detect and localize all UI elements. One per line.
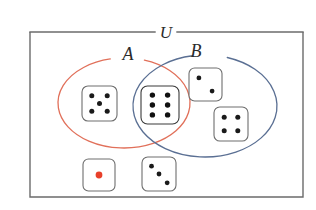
venn-diagram-figure: U AB	[0, 0, 316, 210]
die-pip	[157, 172, 162, 177]
die-face	[189, 68, 222, 101]
die-pip	[235, 128, 240, 133]
die-pip	[97, 101, 102, 106]
die-pip	[150, 112, 155, 117]
set-labels-group: AB	[122, 41, 202, 64]
venn-diagram-canvas: U AB	[0, 0, 316, 210]
die-pip	[96, 172, 103, 179]
die-6-A-and-B	[141, 86, 179, 124]
die-pip	[197, 76, 202, 81]
die-pip	[165, 112, 170, 117]
die-pip	[89, 93, 94, 98]
die-2-B-only	[189, 68, 222, 101]
die-3-outside	[142, 157, 176, 191]
set-label-b: B	[191, 41, 202, 61]
universe-label: U	[160, 23, 174, 42]
die-pip	[150, 92, 155, 97]
die-1-outside	[83, 159, 115, 191]
die-pip	[165, 180, 170, 185]
die-pip	[149, 164, 154, 169]
set-label-a: A	[122, 44, 135, 64]
die-pip	[150, 102, 155, 107]
die-pip	[210, 89, 215, 94]
die-pip	[165, 102, 170, 107]
die-pip	[165, 92, 170, 97]
die-pip	[222, 128, 227, 133]
die-pip	[105, 93, 110, 98]
die-pip	[89, 109, 94, 114]
dice-group	[82, 68, 248, 191]
die-pip	[105, 109, 110, 114]
die-face	[214, 107, 248, 141]
die-pip	[235, 115, 240, 120]
die-4-B-only	[214, 107, 248, 141]
die-pip	[222, 115, 227, 120]
die-5-A-only	[82, 86, 117, 121]
die-face	[141, 86, 179, 124]
